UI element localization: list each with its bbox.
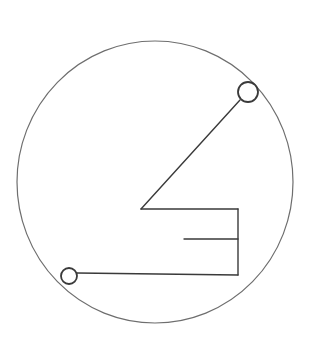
diagonal-arm [141, 100, 240, 209]
bottom-bar [77, 273, 238, 275]
terminal-top-right [238, 82, 258, 102]
terminal-bottom-left [61, 268, 77, 284]
diagram-svg [0, 0, 312, 339]
linkage-segments [77, 100, 240, 275]
diagram-canvas [0, 0, 312, 339]
